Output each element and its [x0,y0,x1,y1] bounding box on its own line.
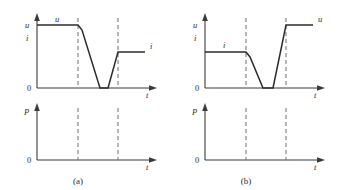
panel-a-ui-y-axis-arrow [34,13,40,21]
panel-b-ui-x-label: t [314,90,317,100]
panel-b-svg: u i 0 t i u P 0 t (b) [168,0,337,190]
panel-a-p-x-axis-arrow [149,157,157,163]
panel-a-caption: (a) [73,176,83,186]
panel-b-p-x-label: t [314,162,317,172]
panel-a-p-x-label: t [146,162,149,172]
panel-b-ui-y-label-u: u [193,20,197,30]
panel-a-ui-y-label-i: i [26,33,29,43]
panel-a: u i 0 t u i P 0 t (a) [0,0,169,190]
panel-b-ui-origin-label: 0 [195,83,199,93]
panel-a-ui-origin-label: 0 [27,83,31,93]
panel-b-p-y-axis-arrow [202,103,208,111]
panel-b-ui-curve-label-u: u [318,14,322,24]
panel-b-p-y-label: P [191,107,197,117]
panel-a-ui-x-axis-arrow [149,85,157,91]
figure-container: u i 0 t u i P 0 t (a) [0,0,337,190]
panel-b-ui-y-label-i: i [194,33,197,43]
panel-b-ui-curve-label-i: i [223,40,226,50]
panel-a-ui-x-label: t [146,90,149,100]
panel-a-p-y-axis-arrow [34,103,40,111]
panel-a-ui-y-label-u: u [25,20,29,30]
panel-a-ui-chart: u i 0 t u i [25,13,157,100]
panel-b-p-origin-label: 0 [195,155,199,165]
panel-a-p-chart: P 0 t [23,103,157,172]
panel-b-ui-waveform [205,25,313,88]
panel-a-p-y-label: P [23,107,29,117]
panel-b-p-chart: P 0 t [191,103,325,172]
panel-a-p-origin-label: 0 [27,155,31,165]
panel-a-ui-curve-label-u: u [55,14,59,24]
panel-b-caption: (b) [241,176,252,186]
panel-b-ui-chart: u i 0 t i u [193,13,325,100]
panel-b-ui-x-axis-arrow [317,85,325,91]
panel-a-svg: u i 0 t u i P 0 t (a) [0,0,169,190]
panel-a-ui-curve-label-i: i [150,41,153,51]
panel-b-ui-y-axis-arrow [202,13,208,21]
panel-a-ui-waveform [37,25,145,88]
panel-b-p-x-axis-arrow [317,157,325,163]
panel-b: u i 0 t i u P 0 t (b) [168,0,337,190]
